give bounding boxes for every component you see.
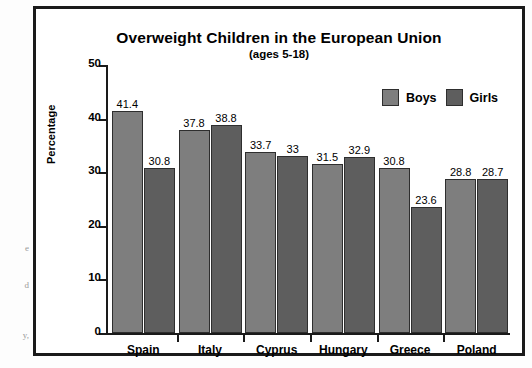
x-axis-category-label: Poland	[457, 343, 497, 357]
page-text-fragments: e d y,	[0, 0, 32, 368]
bar-value-label: 37.8	[183, 117, 204, 129]
x-axis-line	[106, 333, 510, 335]
chart-title: Overweight Children in the European Unio…	[36, 29, 522, 47]
y-axis-tick-label: 10	[88, 271, 101, 283]
bar-value-label: 28.7	[482, 166, 503, 178]
x-axis-category-label: Italy	[198, 343, 222, 357]
x-axis-tick-mark	[310, 335, 312, 342]
y-axis-tick-label: 50	[88, 57, 101, 69]
bar-value-label: 32.9	[349, 144, 370, 156]
x-axis-tick-mark	[177, 335, 179, 342]
x-axis-tick-mark	[243, 335, 245, 342]
x-axis-category-label: Spain	[127, 343, 160, 357]
page-fragment: y,	[23, 330, 29, 340]
bar-value-label: 23.6	[415, 194, 436, 206]
bar-value-label: 33	[287, 143, 299, 155]
bar-value-label: 41.4	[117, 98, 138, 110]
bar-value-label: 28.8	[450, 166, 471, 178]
bar-value-label: 33.7	[250, 139, 271, 151]
plot-area: 0102030405041.430.837.838.833.73331.532.…	[106, 65, 510, 335]
y-axis-tick-label: 30	[88, 164, 101, 176]
y-axis-title: Percentage	[45, 105, 57, 164]
bar-cyprus-girls: 33	[277, 156, 308, 333]
bar-value-label: 38.8	[215, 112, 236, 124]
bar-greece-boys: 30.8	[379, 168, 410, 333]
x-axis-category-label: Greece	[390, 343, 431, 357]
bar-poland-girls: 28.7	[477, 179, 508, 333]
bar-cyprus-boys: 33.7	[245, 152, 276, 333]
y-axis-tick-label: 40	[88, 111, 101, 123]
bar-spain-boys: 41.4	[112, 111, 143, 333]
y-axis-tick-label: 0	[95, 325, 101, 337]
bar-italy-girls: 38.8	[211, 125, 242, 333]
bar-hungary-girls: 32.9	[344, 157, 375, 333]
x-axis-category-label: Cyprus	[256, 343, 297, 357]
bar-hungary-boys: 31.5	[312, 164, 343, 333]
x-axis-tick-mark	[443, 335, 445, 342]
bar-value-label: 30.8	[149, 155, 170, 167]
bar-greece-girls: 23.6	[411, 207, 442, 333]
chart-subtitle: (ages 5-18)	[36, 48, 522, 60]
y-axis-line	[106, 65, 108, 335]
x-axis-category-label: Hungary	[319, 343, 368, 357]
bar-poland-boys: 28.8	[445, 179, 476, 333]
x-axis-tick-mark	[377, 335, 379, 342]
bar-italy-boys: 37.8	[179, 130, 210, 333]
bar-spain-girls: 30.8	[144, 168, 175, 333]
bar-value-label: 30.8	[383, 155, 404, 167]
page-fragment: d	[25, 280, 30, 290]
y-axis-tick-label: 20	[88, 218, 101, 230]
bar-value-label: 31.5	[317, 151, 338, 163]
chart-figure: Overweight Children in the European Unio…	[33, 6, 525, 356]
page-fragment: e	[25, 243, 29, 253]
